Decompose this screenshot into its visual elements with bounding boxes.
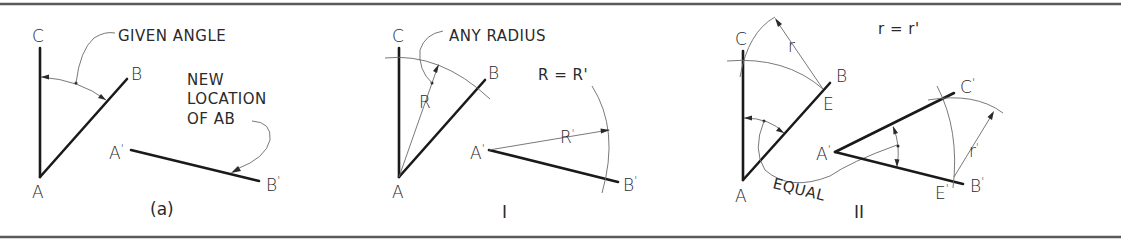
arrowhead	[41, 75, 49, 80]
label-b: B	[131, 64, 142, 84]
note-new-location-3: OF AB	[187, 110, 235, 128]
panel-a: C B A A' B' GIVEN ANGLE NEW LOCATION OF …	[32, 26, 280, 219]
label-c: C	[32, 26, 44, 46]
label-b: B	[488, 63, 499, 83]
label-r: r	[788, 36, 795, 56]
label-a-prime: A'	[816, 143, 831, 164]
radius-r	[776, 20, 823, 89]
label-a-prime: A'	[109, 142, 124, 163]
label-r-prime: r'	[969, 141, 979, 161]
angle-transfer-diagram: C B A A' B' GIVEN ANGLE NEW LOCATION OF …	[0, 0, 1124, 247]
arrowhead	[775, 18, 782, 27]
arrowhead	[776, 127, 784, 133]
label-b-prime: B'	[266, 174, 280, 195]
label-c-prime: C'	[960, 76, 975, 97]
radius-r-prime	[489, 130, 609, 150]
arrowhead	[433, 64, 439, 73]
leader-any-radius	[420, 31, 443, 83]
label-e: E	[823, 94, 834, 114]
label-a: A	[392, 182, 404, 202]
arrowhead	[744, 116, 752, 121]
label-e-prime: E'	[935, 182, 949, 203]
label-b-prime: B'	[970, 175, 984, 196]
label-a: A	[735, 186, 747, 206]
caption-i: I	[502, 202, 507, 222]
line-a1b1	[131, 150, 259, 181]
note-equal: EQUAL	[771, 174, 827, 204]
line-a1b1	[835, 152, 963, 184]
label-b-prime: B'	[623, 174, 637, 195]
arc-ae	[727, 60, 823, 89]
note-r-equals-r-prime: R = R'	[538, 66, 588, 84]
line-a1c1	[835, 93, 954, 152]
leader-dot	[897, 145, 900, 148]
panel-ii: C B E A r EQUAL A' C' B' E' r' r = r' II	[727, 17, 1003, 222]
label-r: R	[419, 92, 431, 112]
note-new-location-2: LOCATION	[187, 90, 267, 108]
leader-given-angle	[76, 33, 115, 83]
caption-a: (a)	[150, 199, 174, 219]
label-r-prime: R'	[560, 127, 575, 147]
label-a: A	[32, 182, 44, 202]
label-b: B	[836, 66, 847, 86]
arrowhead	[893, 126, 898, 135]
arrowhead	[988, 111, 995, 120]
line-a1b1	[489, 150, 618, 182]
label-a-prime: A'	[470, 142, 485, 163]
note-any-radius: ANY RADIUS	[449, 27, 546, 45]
caption-ii: II	[854, 202, 864, 222]
note-new-location-1: NEW	[187, 71, 224, 89]
leader-new-location	[237, 121, 270, 169]
panel-i: C B A R ANY RADIUS A' B' R' R = R' I	[385, 26, 637, 222]
label-c: C	[735, 29, 747, 49]
given-angle-arc	[41, 77, 106, 100]
line-ab	[743, 83, 830, 180]
arrowhead	[231, 166, 241, 173]
label-c: C	[392, 26, 404, 46]
note-r-equals-r-prime: r = r'	[878, 20, 920, 38]
note-given-angle: GIVEN ANGLE	[118, 27, 226, 45]
